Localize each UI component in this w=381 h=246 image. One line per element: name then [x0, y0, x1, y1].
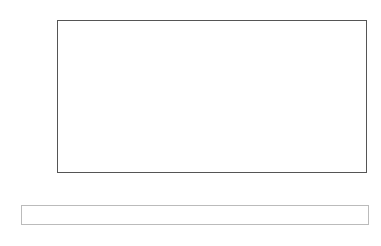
y-axis-label — [9, 45, 23, 145]
plot-area — [57, 20, 367, 173]
legend — [21, 205, 369, 225]
